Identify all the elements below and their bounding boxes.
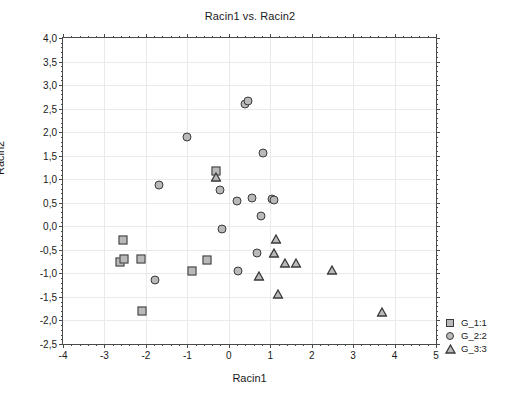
y-minor-tick-right [436, 222, 438, 223]
y-tick [59, 109, 63, 110]
y-tick-label: 0,5 [43, 197, 57, 208]
y-tick-right [436, 85, 440, 86]
y-minor-tick [61, 99, 63, 100]
legend-item-g-3-3[interactable]: G_3:3 [443, 342, 487, 355]
y-tick [59, 179, 63, 180]
x-minor-tick-top [378, 36, 379, 38]
x-minor-tick [386, 344, 387, 346]
x-tick [146, 344, 147, 348]
y-minor-tick [61, 94, 63, 95]
x-minor-tick [254, 344, 255, 346]
y-minor-tick-right [436, 137, 438, 138]
y-minor-tick-right [436, 189, 438, 190]
x-tick-top [104, 34, 105, 38]
y-tick-label: -0,5 [40, 244, 57, 255]
x-minor-tick [303, 344, 304, 346]
y-tick-label: -1,0 [40, 268, 57, 279]
y-tick-label: 0,0 [43, 221, 57, 232]
x-minor-tick [428, 344, 429, 346]
x-tick-top [270, 34, 271, 38]
x-minor-tick-top [403, 36, 404, 38]
data-point-g-2-2 [215, 185, 224, 194]
y-minor-tick-right [436, 207, 438, 208]
x-gridline [104, 38, 105, 344]
y-minor-tick [61, 240, 63, 241]
y-tick-right [436, 226, 440, 227]
x-tick-top [187, 34, 188, 38]
x-minor-tick-top [419, 36, 420, 38]
y-minor-tick [61, 137, 63, 138]
y-tick [59, 226, 63, 227]
y-minor-tick-right [436, 151, 438, 152]
y-tick-label: 2,5 [43, 103, 57, 114]
x-minor-tick [129, 344, 130, 346]
y-minor-tick-right [436, 236, 438, 237]
y-minor-tick-right [436, 104, 438, 105]
y-minor-tick [61, 52, 63, 53]
y-minor-tick-right [436, 175, 438, 176]
y-minor-tick-right [436, 339, 438, 340]
y-tick [59, 62, 63, 63]
y-tick [59, 273, 63, 274]
y-minor-tick [61, 269, 63, 270]
x-tick [187, 344, 188, 348]
y-minor-tick-right [436, 212, 438, 213]
data-point-g-2-2 [252, 249, 261, 258]
legend-label: G_3:3 [461, 343, 487, 354]
x-minor-tick-top [303, 36, 304, 38]
y-minor-tick [61, 231, 63, 232]
x-minor-tick [171, 344, 172, 346]
x-minor-tick-top [154, 36, 155, 38]
x-tick-top [146, 34, 147, 38]
y-minor-tick [61, 43, 63, 44]
y-minor-tick [61, 283, 63, 284]
y-minor-tick [61, 175, 63, 176]
y-gridline [63, 273, 436, 274]
x-minor-tick [138, 344, 139, 346]
x-minor-tick-top [262, 36, 263, 38]
x-minor-tick-top [370, 36, 371, 38]
x-axis-title: Racin1 [62, 372, 437, 384]
data-point-g-2-2 [234, 266, 243, 275]
legend-item-g-1-1[interactable]: G_1:1 [443, 316, 487, 329]
y-minor-tick-right [436, 142, 438, 143]
x-minor-tick [88, 344, 89, 346]
y-minor-tick-right [436, 43, 438, 44]
x-tick [270, 344, 271, 348]
y-gridline [63, 132, 436, 133]
x-minor-tick [295, 344, 296, 346]
y-gridline [63, 62, 436, 63]
x-minor-tick-top [204, 36, 205, 38]
y-minor-tick [61, 80, 63, 81]
y-minor-tick-right [436, 292, 438, 293]
x-minor-tick [245, 344, 246, 346]
x-minor-tick [419, 344, 420, 346]
x-tick-label: 0 [226, 350, 232, 361]
x-tick-top [63, 34, 64, 38]
y-gridline [63, 226, 436, 227]
x-minor-tick-top [237, 36, 238, 38]
x-minor-tick [220, 344, 221, 346]
y-minor-tick-right [436, 245, 438, 246]
plot-area: -4-3-2-10123454,03,53,02,52,01,51,00,50,… [62, 37, 437, 345]
x-tick [229, 344, 230, 348]
y-minor-tick [61, 189, 63, 190]
x-minor-tick-top [179, 36, 180, 38]
y-minor-tick [61, 170, 63, 171]
x-minor-tick-top [71, 36, 72, 38]
data-point-g-2-2 [244, 96, 253, 105]
x-minor-tick-top [411, 36, 412, 38]
y-tick-label: -2,0 [40, 315, 57, 326]
y-tick [59, 297, 63, 298]
x-tick-top [229, 34, 230, 38]
legend-item-g-2-2[interactable]: G_2:2 [443, 329, 487, 342]
y-gridline [63, 179, 436, 180]
y-minor-tick-right [436, 170, 438, 171]
y-minor-tick [61, 292, 63, 293]
x-minor-tick-top [138, 36, 139, 38]
x-minor-tick [196, 344, 197, 346]
y-minor-tick-right [436, 325, 438, 326]
data-point-g-2-2 [217, 225, 226, 234]
y-tick [59, 320, 63, 321]
x-minor-tick-top [337, 36, 338, 38]
